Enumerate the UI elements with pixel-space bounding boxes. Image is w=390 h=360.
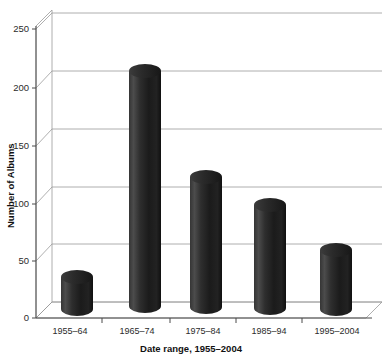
bar-1995-2004[interactable]	[320, 243, 352, 316]
bar-1965-74[interactable]	[129, 64, 161, 313]
x-tick-label-1: 1955–64	[52, 326, 87, 336]
y-axis-title: Number of Albums	[5, 143, 16, 228]
x-axis: 1955–64 1965–74 1975–84 1985–94 1995–200…	[36, 318, 372, 354]
bar-1955-64[interactable]	[61, 270, 93, 316]
x-tick-label-2: 1965–74	[119, 326, 154, 336]
y-tick-label-200: 200	[13, 82, 29, 93]
side-wall	[36, 10, 52, 318]
bar-1975-84[interactable]	[190, 170, 222, 314]
x-tick-label-3: 1975–84	[185, 326, 220, 336]
y-tick-label-50: 50	[18, 255, 29, 266]
y-tick-label-0: 0	[24, 312, 29, 323]
y-tick-label-250: 250	[13, 23, 29, 34]
chart-container: 250 200 150 100 50 0 Number of Albums	[0, 0, 390, 360]
bar-chart-svg: 250 200 150 100 50 0 Number of Albums	[0, 0, 390, 360]
x-tick-label-4: 1985–94	[251, 326, 286, 336]
y-axis: 250 200 150 100 50 0 Number of Albums	[5, 23, 36, 323]
x-axis-title: Date range, 1955–2004	[140, 343, 243, 354]
x-tick-label-5: 1995–2004	[314, 326, 359, 336]
bar-1985-94[interactable]	[254, 198, 286, 315]
